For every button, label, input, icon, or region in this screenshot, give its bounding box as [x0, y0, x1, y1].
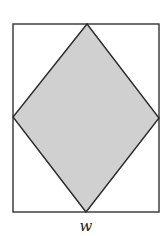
diagram-canvas: w — [0, 0, 167, 236]
width-label: w — [80, 217, 93, 235]
